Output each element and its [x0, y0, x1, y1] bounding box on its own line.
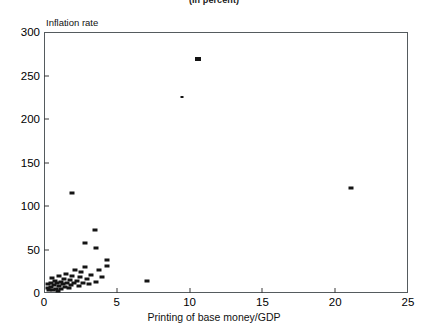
scatter-point: [63, 272, 68, 275]
scatter-point: [83, 265, 88, 268]
scatter-point: [145, 279, 150, 282]
y-tick-label: 250: [0, 70, 40, 82]
chart-figure: (In percent) Inflation rate 050100150200…: [0, 0, 428, 328]
scatter-point: [87, 283, 92, 286]
x-tick-label: 5: [114, 296, 120, 308]
scatter-point: [96, 269, 101, 272]
scatter-point: [100, 276, 105, 279]
scatter-point: [69, 191, 74, 194]
y-tick-label: 0: [0, 287, 40, 299]
y-tick-mark: [44, 162, 49, 163]
scatter-point: [181, 96, 184, 98]
y-tick-label: 150: [0, 157, 40, 169]
x-axis-title: Printing of base money/GDP: [0, 311, 428, 323]
y-tick-mark: [44, 75, 49, 76]
y-tick-label: 300: [0, 26, 40, 38]
scatter-point: [93, 246, 98, 249]
scatter-point: [105, 258, 110, 261]
scatter-point: [92, 229, 97, 232]
x-tick-label: 15: [256, 296, 269, 308]
scatter-point: [81, 281, 86, 284]
y-tick-mark: [44, 119, 49, 120]
y-tick-label: 100: [0, 200, 40, 212]
scatter-point: [84, 278, 89, 281]
scatter-point: [76, 285, 81, 288]
x-tick-mark: [262, 288, 263, 293]
chart-subtitle: (In percent): [0, 0, 428, 5]
x-tick-mark: [116, 288, 117, 293]
scatter-point: [73, 268, 78, 271]
y-tick-mark: [44, 249, 49, 250]
scatter-point: [83, 242, 88, 245]
plot-area: [44, 32, 408, 293]
scatter-point: [70, 274, 75, 277]
scatter-point: [195, 57, 201, 61]
y-axis-title: Inflation rate: [46, 17, 98, 28]
scatter-point: [104, 265, 109, 268]
y-tick-mark: [44, 206, 49, 207]
scatter-point: [349, 186, 354, 189]
x-tick-mark: [189, 288, 190, 293]
scatter-point: [78, 276, 83, 279]
scatter-point: [89, 273, 94, 276]
x-tick-mark: [335, 288, 336, 293]
x-tick-label: 20: [329, 296, 342, 308]
scatter-point: [74, 279, 79, 282]
scatter-point: [79, 271, 84, 274]
scatter-point: [93, 280, 98, 283]
scatter-point: [55, 290, 60, 293]
y-tick-label: 200: [0, 113, 40, 125]
x-tick-label: 25: [402, 296, 415, 308]
x-tick-label: 10: [183, 296, 196, 308]
scatter-point: [66, 286, 71, 289]
y-tick-label: 50: [0, 244, 40, 256]
x-tick-label: 0: [41, 296, 47, 308]
